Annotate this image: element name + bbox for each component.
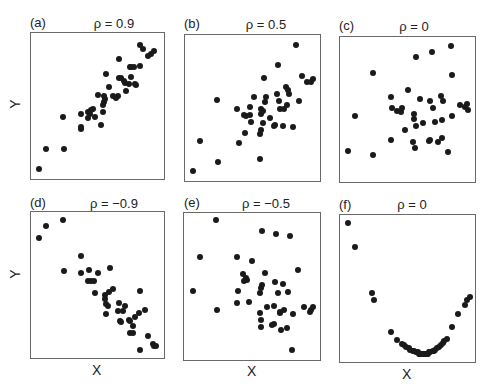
data-point	[259, 228, 265, 234]
data-point	[440, 98, 446, 104]
data-point	[235, 288, 241, 294]
data-point	[295, 267, 301, 273]
data-point	[417, 96, 423, 102]
data-point	[258, 127, 264, 133]
data-point	[130, 330, 136, 336]
data-point	[61, 268, 67, 274]
data-point	[411, 116, 417, 122]
data-point	[455, 311, 461, 317]
data-point	[118, 319, 124, 325]
x-axis-label: X	[402, 366, 411, 382]
data-point	[261, 75, 267, 81]
data-point	[36, 166, 42, 172]
data-point	[137, 347, 143, 353]
data-point	[197, 138, 203, 144]
data-point	[299, 73, 305, 79]
data-point	[262, 270, 268, 276]
data-point	[100, 109, 106, 115]
data-point	[131, 64, 137, 70]
data-point	[190, 288, 196, 294]
data-point	[430, 105, 436, 111]
data-point	[258, 324, 264, 330]
data-point	[260, 120, 266, 126]
data-point	[289, 347, 295, 353]
data-point	[105, 303, 111, 309]
data-point	[420, 120, 426, 126]
data-point	[122, 303, 128, 309]
data-point	[260, 108, 266, 114]
panel-label: (c)	[339, 18, 354, 33]
data-point	[271, 303, 277, 309]
data-point	[310, 304, 316, 310]
data-point	[286, 91, 292, 97]
data-point	[116, 300, 122, 306]
data-point	[91, 278, 97, 284]
data-point	[43, 146, 49, 152]
data-point	[142, 307, 148, 313]
data-point	[103, 71, 109, 77]
data-point	[263, 94, 269, 100]
data-point	[370, 152, 376, 158]
data-point	[247, 112, 253, 118]
data-point	[412, 145, 418, 151]
data-point	[78, 253, 84, 259]
data-point	[95, 270, 101, 276]
data-point	[369, 290, 375, 296]
data-point	[133, 82, 139, 88]
x-axis-label: X	[92, 362, 101, 378]
panel-label: (b)	[184, 16, 200, 31]
data-point	[345, 220, 351, 226]
data-point	[399, 105, 405, 111]
data-point	[262, 99, 268, 105]
data-point	[90, 106, 96, 112]
data-point	[287, 233, 293, 239]
data-point	[137, 63, 143, 69]
data-point	[259, 282, 265, 288]
data-point	[234, 106, 240, 112]
data-point	[281, 307, 287, 313]
data-point	[214, 307, 220, 313]
data-point	[427, 98, 433, 104]
data-point	[247, 104, 253, 110]
data-point	[151, 48, 157, 54]
data-point	[249, 258, 255, 264]
plot-area	[184, 34, 321, 182]
data-point	[257, 310, 263, 316]
data-point	[106, 84, 112, 90]
data-point	[153, 343, 159, 349]
data-point	[116, 56, 122, 62]
plot-area	[30, 211, 165, 359]
data-point	[257, 156, 263, 162]
data-point	[273, 231, 279, 237]
data-point	[197, 254, 203, 260]
data-point	[427, 137, 433, 143]
data-point	[345, 148, 351, 154]
data-point	[234, 254, 240, 260]
data-point	[190, 168, 196, 174]
data-point	[101, 99, 107, 105]
data-point	[128, 74, 134, 80]
data-point	[110, 286, 116, 292]
data-point	[448, 43, 454, 49]
data-point	[275, 62, 281, 68]
data-point	[285, 289, 291, 295]
data-point	[371, 297, 377, 303]
data-point	[293, 42, 299, 48]
panel-label: (d)	[30, 195, 46, 210]
data-point	[92, 114, 98, 120]
data-point	[290, 311, 296, 317]
data-point	[296, 98, 302, 104]
data-point	[432, 119, 438, 125]
data-point	[60, 114, 66, 120]
data-point	[445, 149, 451, 155]
data-point	[98, 122, 104, 128]
data-point	[352, 113, 358, 119]
data-point	[61, 146, 67, 152]
data-point	[413, 123, 419, 129]
plot-area	[339, 214, 476, 363]
data-point	[136, 310, 142, 316]
data-point	[275, 290, 281, 296]
data-point	[123, 88, 129, 94]
panel-title: ρ = 0	[364, 19, 464, 34]
data-point	[449, 72, 455, 78]
